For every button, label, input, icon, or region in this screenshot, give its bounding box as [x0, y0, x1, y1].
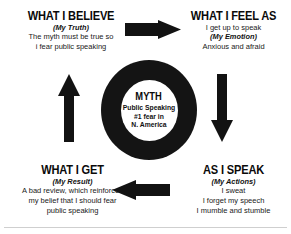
quadrant-heading-get: WHAT I GET	[13, 163, 132, 177]
quadrant-line: The myth must be true so	[0, 32, 142, 42]
quadrant-line: Anxious and afraid	[176, 42, 291, 52]
diagram-canvas: WHAT I BELIEVE (My Truth) The myth must …	[0, 0, 291, 234]
quadrant-as-i-speak: AS I SPEAK (My Actions) I sweat I forget…	[176, 163, 291, 215]
arrow-left-icon	[112, 180, 170, 200]
quadrant-line: I sweat	[176, 186, 291, 196]
center-line: Public Speaking	[123, 104, 176, 113]
center-donut-ring: MYTH Public Speaking #1 fear in N. Ameri…	[101, 60, 197, 160]
quadrant-what-i-feel-as: WHAT I FEEL AS I get up to speak (My Emo…	[176, 9, 291, 52]
quadrant-heading-speak: AS I SPEAK	[186, 163, 280, 177]
arrow-down-icon	[211, 74, 233, 142]
center-line: #1 fear in	[134, 113, 164, 122]
bottom-divider	[4, 227, 287, 228]
quadrant-heading-feel: WHAT I FEEL AS	[186, 9, 280, 23]
arrow-right-icon	[125, 20, 181, 39]
quadrant-lead-feel: I get up to speak	[176, 23, 291, 33]
quadrant-label-feel: (My Emotion)	[176, 32, 291, 41]
center-donut-hole: MYTH Public Speaking #1 fear in N. Ameri…	[121, 80, 178, 141]
arrow-up-icon	[58, 74, 80, 142]
center-heading-myth: MYTH	[136, 91, 162, 102]
center-line: N. America	[131, 121, 166, 130]
quadrant-line: I mumble and stumble	[176, 206, 291, 216]
quadrant-line: public speaking	[0, 206, 145, 216]
quadrant-label-believe: (My Truth)	[0, 23, 142, 32]
quadrant-label-speak: (My Actions)	[176, 177, 291, 186]
quadrant-what-i-believe: WHAT I BELIEVE (My Truth) The myth must …	[0, 9, 142, 52]
quadrant-heading-believe: WHAT I BELIEVE	[13, 9, 129, 23]
quadrant-line: I forget my speech	[176, 196, 291, 206]
quadrant-line: i fear public speaking	[0, 42, 142, 52]
